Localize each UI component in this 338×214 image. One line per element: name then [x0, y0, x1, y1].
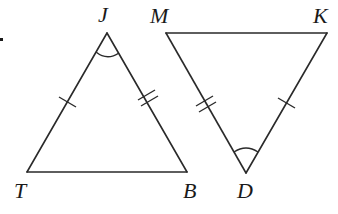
- vertex-label-t: T: [14, 178, 28, 203]
- angle-arc-d: [234, 148, 258, 152]
- vertex-label-d: D: [236, 178, 253, 203]
- vertex-label-k: K: [312, 3, 329, 28]
- vertex-label-j: J: [98, 2, 109, 27]
- vertex-label-m: M: [149, 3, 170, 28]
- single-tick-jt: [59, 97, 76, 107]
- single-tick-kd: [278, 98, 295, 108]
- triangle-jtb: [27, 33, 187, 172]
- triangle-mkd: [166, 33, 327, 173]
- stray-period-mark: [0, 38, 3, 41]
- vertex-label-b: B: [183, 178, 196, 203]
- angle-arc-j: [96, 52, 119, 57]
- congruent-triangles-figure: J M K T B D: [0, 0, 338, 214]
